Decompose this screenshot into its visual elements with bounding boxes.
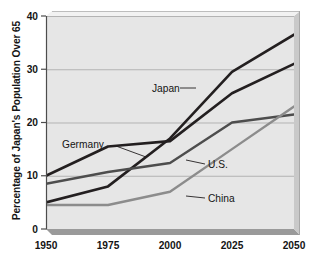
x-tick-label: 1975 — [97, 240, 120, 251]
series-label-japan: Japan — [152, 83, 180, 94]
x-tick-label: 1950 — [35, 240, 58, 251]
x-tick-label: 2050 — [283, 240, 306, 251]
series-label-germany: Germany — [62, 139, 105, 150]
y-tick-label: 0 — [32, 224, 38, 235]
y-tick-label: 40 — [27, 11, 39, 22]
y-tick-label: 30 — [27, 64, 39, 75]
series-label-us: U.S. — [208, 159, 228, 170]
chart-figure: Percentage of Japan's Population Over 65 — [0, 0, 313, 272]
x-axis-ticks: 19501975200020252050 — [35, 240, 306, 251]
chart-canvas: 010203040 19501975200020252050 JapanGerm… — [0, 0, 313, 272]
series-label-china: China — [208, 193, 235, 204]
x-tick-label: 2000 — [159, 240, 182, 251]
y-tick-label: 20 — [27, 117, 39, 128]
y-axis-ticks: 010203040 — [27, 11, 46, 235]
y-tick-label: 10 — [27, 170, 39, 181]
x-tick-label: 2025 — [221, 240, 244, 251]
